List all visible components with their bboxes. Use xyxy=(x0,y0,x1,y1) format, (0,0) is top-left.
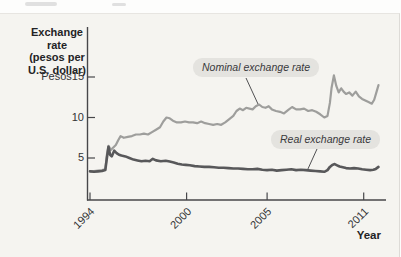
nominal-callout-line xyxy=(246,78,258,104)
real-rate-line xyxy=(90,147,379,172)
real-callout-line xyxy=(307,149,317,171)
y-axis-title-line1: Exchange rate xyxy=(20,26,94,51)
y-tick-label-10: 10 xyxy=(28,111,84,123)
real-rate-annotation: Real exchange rate xyxy=(271,130,380,149)
x-axis-title: Year xyxy=(301,229,381,241)
screenshot-root: Exchange rate (pesos per U.S. dollar) Pe… xyxy=(0,0,401,257)
y-tick-label-15: Pesos15 xyxy=(28,70,84,82)
y-axis-title: Exchange rate (pesos per U.S. dollar) xyxy=(20,26,94,76)
y-tick-label-5: 5 xyxy=(28,151,84,163)
nominal-rate-annotation: Nominal exchange rate xyxy=(193,58,319,77)
y-axis-title-line2: (pesos per xyxy=(20,51,94,64)
nominal-rate-line xyxy=(90,75,379,171)
plot-lines xyxy=(90,75,379,171)
